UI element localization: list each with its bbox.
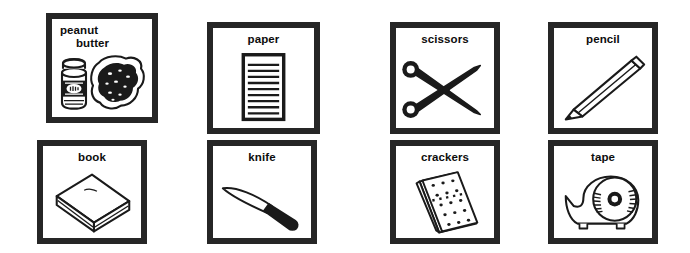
picture-card-label-paper: paper: [213, 33, 314, 46]
picture-card-inner: crackers: [396, 146, 494, 238]
cracker-stack-icon: [396, 164, 494, 238]
picture-card-label-peanut-butter: peanutbutter: [52, 24, 152, 50]
picture-card-knife[interactable]: knife: [207, 140, 317, 244]
label-line-2: butter: [60, 37, 149, 50]
picture-card-inner: paper: [213, 28, 314, 128]
label-line-1: peanut: [60, 24, 98, 36]
picture-card-inner: peanutbutter: [52, 19, 152, 117]
picture-card-inner: pencil: [554, 28, 652, 128]
picture-card-label-scissors: scissors: [396, 33, 494, 46]
peanut-butter-jar-and-bread-icon: [52, 50, 152, 117]
picture-card-crackers[interactable]: crackers: [390, 140, 500, 244]
scissors-icon: [396, 46, 494, 128]
picture-card-label-crackers: crackers: [396, 151, 494, 164]
picture-card-label-pencil: pencil: [554, 33, 652, 46]
picture-card-label-book: book: [43, 151, 141, 164]
tape-dispenser-icon: [554, 164, 652, 238]
table-knife-icon: [213, 164, 311, 238]
picture-card-inner: tape: [554, 146, 652, 238]
picture-card-paper[interactable]: paper: [207, 22, 320, 134]
picture-card-inner: book: [43, 146, 141, 238]
lined-paper-pad-icon: [213, 46, 314, 128]
picture-card-label-knife: knife: [213, 151, 311, 164]
picture-card-scissors[interactable]: scissors: [390, 22, 500, 134]
closed-book-icon: [43, 164, 141, 238]
picture-card-tape[interactable]: tape: [548, 140, 658, 244]
picture-card-label-tape: tape: [554, 151, 652, 164]
pencil-icon: [554, 46, 652, 128]
picture-card-inner: knife: [213, 146, 311, 238]
picture-card-inner: scissors: [396, 28, 494, 128]
picture-card-book[interactable]: book: [37, 140, 147, 244]
picture-card-pencil[interactable]: pencil: [548, 22, 658, 134]
picture-card-peanut-butter[interactable]: peanutbutter: [46, 13, 158, 123]
picture-card-sheet: peanutbutter: [0, 0, 690, 253]
